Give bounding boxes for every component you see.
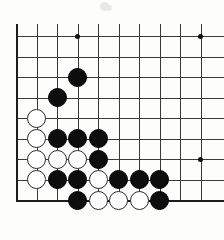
white-stone bbox=[130, 191, 149, 210]
scan-speck bbox=[106, 5, 112, 11]
white-stone bbox=[27, 129, 46, 148]
grid-line-horizontal bbox=[16, 118, 224, 119]
white-stone bbox=[48, 150, 67, 169]
black-stone bbox=[109, 170, 128, 189]
board-surface bbox=[0, 0, 224, 240]
black-stone bbox=[68, 170, 87, 189]
white-stone bbox=[27, 109, 46, 128]
white-stone bbox=[109, 191, 128, 210]
white-stone bbox=[27, 170, 46, 189]
grid-line-horizontal bbox=[16, 77, 224, 78]
white-stone bbox=[27, 150, 46, 169]
grid-line-horizontal bbox=[16, 36, 224, 37]
black-stone bbox=[130, 170, 149, 189]
black-stone bbox=[68, 191, 87, 210]
black-stone bbox=[68, 129, 87, 148]
black-stone bbox=[48, 129, 67, 148]
star-point bbox=[75, 34, 80, 39]
grid-line-horizontal bbox=[16, 57, 224, 58]
black-stone bbox=[150, 170, 169, 189]
star-point bbox=[198, 157, 203, 162]
black-stone bbox=[150, 191, 169, 210]
grid-line-vertical bbox=[180, 24, 181, 200]
white-stone bbox=[89, 191, 108, 210]
black-stone bbox=[48, 170, 67, 189]
black-stone bbox=[89, 150, 108, 169]
board-edge-left bbox=[16, 24, 18, 200]
star-point bbox=[198, 34, 203, 39]
white-stone bbox=[89, 170, 108, 189]
go-board-diagram bbox=[0, 0, 224, 240]
black-stone bbox=[48, 88, 67, 107]
black-stone bbox=[89, 129, 108, 148]
grid-line-vertical bbox=[201, 24, 202, 200]
black-stone bbox=[68, 68, 87, 87]
white-stone bbox=[68, 150, 87, 169]
